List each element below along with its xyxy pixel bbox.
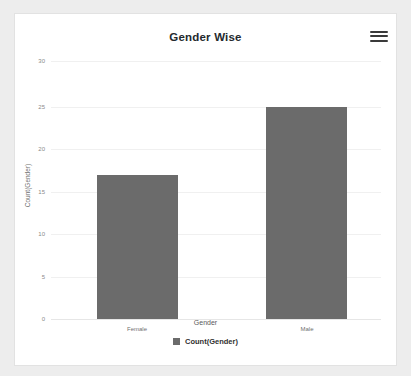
x-axis-title: Gender — [15, 319, 396, 326]
y-tick-label-5: 5 — [15, 274, 45, 280]
x-tick-label-male: Male — [300, 326, 313, 332]
y-axis-title: Count(Gender) — [24, 126, 31, 246]
legend-label: Count(Gender) — [185, 337, 238, 346]
chart-legend[interactable]: Count(Gender) — [15, 337, 396, 346]
y-tick-label-30: 30 — [15, 58, 45, 64]
bar-male[interactable] — [266, 107, 347, 319]
legend-swatch-icon — [173, 338, 180, 345]
gridline-30 — [51, 61, 381, 62]
plot-area: 30 25 20 15 10 5 0 Count(Gender) Female … — [15, 14, 398, 367]
y-tick-label-25: 25 — [15, 104, 45, 110]
bar-female[interactable] — [97, 175, 178, 319]
x-tick-label-female: Female — [127, 326, 147, 332]
chart-card: Gender Wise 30 25 20 15 10 5 0 Count(Gen… — [14, 13, 397, 366]
